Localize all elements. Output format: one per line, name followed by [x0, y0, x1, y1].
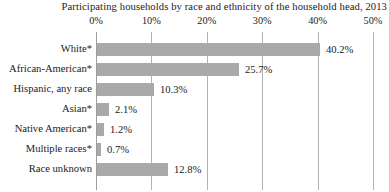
x-tick-label: 20%	[197, 15, 216, 26]
category-label: Native American*	[15, 122, 92, 136]
x-tick-label: 50%	[364, 15, 383, 26]
x-tick-label: 40%	[308, 15, 327, 26]
value-label: 2.1%	[115, 103, 137, 116]
category-label: Race unknown	[29, 162, 92, 176]
value-label: 12.8%	[174, 163, 201, 176]
x-tick-label: 10%	[142, 15, 161, 26]
gridline	[373, 32, 374, 190]
value-label: 1.2%	[110, 123, 132, 136]
category-label: Multiple races*	[26, 142, 92, 156]
value-label: 0.7%	[107, 143, 129, 156]
bar	[97, 143, 101, 156]
x-tick-label: 0%	[89, 15, 103, 26]
bar	[97, 43, 320, 56]
value-label: 10.3%	[160, 83, 187, 96]
value-label: 25.7%	[245, 63, 272, 76]
category-label: Hispanic, any race	[13, 82, 92, 96]
bar	[97, 103, 109, 116]
bar	[97, 63, 239, 76]
category-label: Asian*	[62, 102, 92, 116]
bar-chart: Participating households by race and eth…	[0, 0, 389, 192]
x-tick-label: 30%	[253, 15, 272, 26]
bar	[97, 163, 168, 176]
value-label: 40.2%	[326, 43, 353, 56]
category-label: White*	[61, 42, 92, 56]
bar	[97, 123, 104, 136]
category-label: African-American*	[9, 62, 92, 76]
bar	[97, 83, 154, 96]
